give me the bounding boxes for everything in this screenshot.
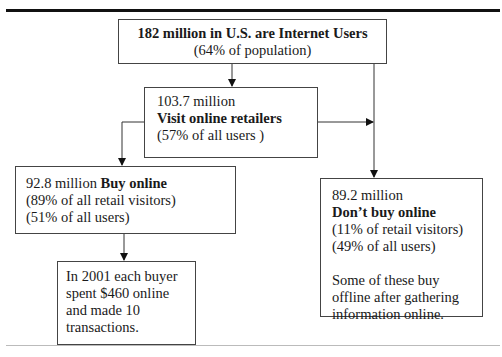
bottom-rule: [6, 345, 500, 346]
edge-visit-to-buy: [122, 122, 144, 165]
node-share-users: (51% of all users): [26, 209, 235, 226]
node-label: Don’t buy online: [332, 204, 482, 221]
node-dont-buy-online: 89.2 million Don’t buy online (11% of re…: [320, 178, 483, 317]
node-count: 103.7 million: [157, 93, 317, 110]
spacer: [332, 255, 482, 272]
node-share-visitors: (11% of retail visitors): [332, 221, 482, 238]
node-buy-online: 92.8 million Buy online (89% of all reta…: [15, 166, 236, 234]
node-text-line: spent $460 online: [66, 285, 195, 302]
node-visit-retailers: 103.7 million Visit online retailers (57…: [144, 87, 318, 158]
node-title: 182 million in U.S. are Internet Users: [119, 25, 386, 42]
node-count: 89.2 million: [332, 187, 482, 204]
node-subtitle: (64% of population): [119, 42, 386, 59]
node-count: 92.8 million: [26, 175, 97, 191]
node-note-line: Some of these buy: [332, 272, 482, 289]
node-text-line: and made 10: [66, 302, 195, 319]
node-text-line: transactions.: [66, 319, 195, 336]
node-label: Visit online retailers: [157, 110, 317, 127]
node-label: Buy online: [101, 175, 167, 191]
node-internet-users: 182 million in U.S. are Internet Users (…: [118, 19, 387, 64]
node-share: (57% of all users ): [157, 127, 317, 144]
node-note-line: information online.: [332, 306, 482, 323]
node-text-line: In 2001 each buyer: [66, 268, 195, 285]
node-buyer-spend: In 2001 each buyer spent $460 online and…: [57, 261, 196, 345]
node-share-visitors: (89% of all retail visitors): [26, 192, 235, 209]
node-note-line: offline after gathering: [332, 289, 482, 306]
node-heading: 92.8 million Buy online: [26, 175, 235, 192]
node-share-users: (49% of all users): [332, 238, 482, 255]
